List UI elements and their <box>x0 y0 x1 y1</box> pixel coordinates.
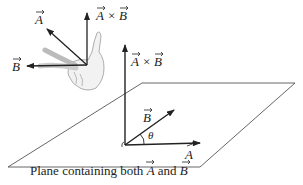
svg-text:A: A <box>184 147 193 162</box>
svg-text:B: B <box>143 110 151 125</box>
hand-label-cross: A × B <box>95 6 128 23</box>
plane-vector-a-arrow <box>125 143 200 145</box>
svg-text:×: × <box>108 8 115 23</box>
plane-label-a: A <box>184 142 195 162</box>
plane-caption: Plane containing both A and B <box>30 160 190 178</box>
svg-text:×: × <box>143 54 150 69</box>
hand-label-b: B <box>12 57 21 74</box>
plane-label-cross: A × B <box>130 52 163 69</box>
plane-label-b: B <box>143 108 152 125</box>
hand-icon <box>40 32 104 90</box>
svg-text:A: A <box>130 54 139 69</box>
cross-product-diagram: A B A × B A × B B θ A Plan <box>0 0 303 185</box>
angle-arc <box>140 134 144 144</box>
right-angle-mark <box>122 142 124 147</box>
plane-parallelogram <box>8 83 295 167</box>
svg-text:θ: θ <box>148 129 154 141</box>
plane-label-theta: θ <box>148 129 154 141</box>
svg-text:B: B <box>154 54 162 69</box>
svg-text:A: A <box>34 12 43 27</box>
svg-text:A: A <box>95 8 104 23</box>
svg-text:B: B <box>119 8 127 23</box>
hand-label-a: A <box>34 10 44 27</box>
svg-text:B: B <box>12 59 20 74</box>
svg-text:Plane containing both A and B: Plane containing both A and B <box>30 163 188 178</box>
